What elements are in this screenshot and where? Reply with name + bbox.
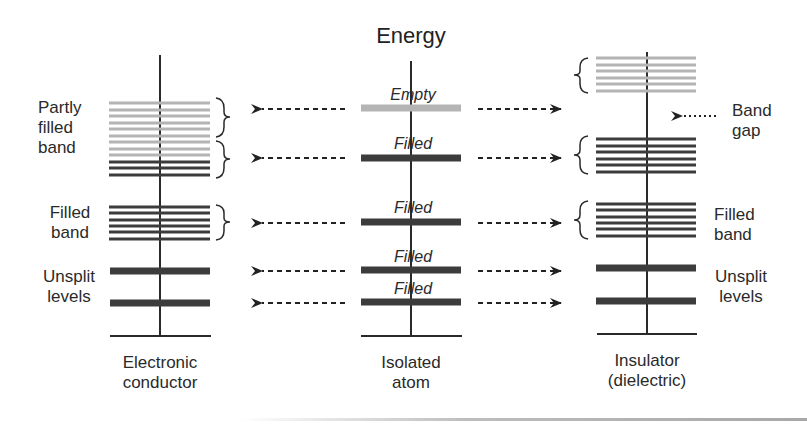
conductor-filled-band-label: Filled band: [45, 203, 95, 243]
atom-level-label: Empty: [390, 86, 435, 104]
insulator-unsplit-levels-label: Unsplit levels: [708, 267, 774, 307]
conductor-unsplit-levels-label: Unsplit levels: [36, 267, 102, 307]
atom-level-label: Filled: [394, 135, 432, 153]
insulator-column-label: Insulator (dielectric): [587, 351, 707, 391]
page-edge-divider: [240, 418, 807, 421]
partly-filled-band-label: Partly filled band: [38, 98, 81, 158]
insulator-column: [574, 52, 697, 334]
atom-level-label: Filled: [394, 280, 432, 298]
atom-level-label: Filled: [394, 199, 432, 217]
conductor-braces: [216, 98, 230, 240]
insulator-filled-band-label: Filled band: [714, 205, 755, 245]
atom-level-label: Filled: [394, 248, 432, 266]
conductor-column-label: Electronic conductor: [100, 353, 220, 393]
atom-column-label: Isolated atom: [351, 353, 471, 393]
conductor-column: [109, 55, 230, 336]
band-gap-label: Band gap: [732, 101, 772, 141]
energy-title: Energy: [376, 23, 446, 49]
insulator-braces: [574, 58, 588, 239]
